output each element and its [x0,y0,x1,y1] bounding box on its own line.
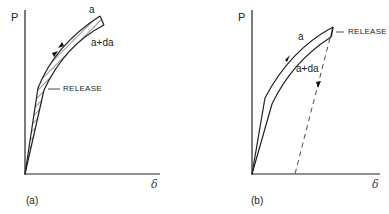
curve-a-a [25,16,100,174]
curve-label-a-b: a [298,32,304,42]
panel-caption-b: (b) [251,196,263,206]
curve-label-a: a [89,5,95,15]
p-axis-label-a: P [11,12,18,23]
curve-label-a-plus-da: a+da [91,38,114,48]
unloading-arrow-icon [316,81,321,88]
loading-arrow-icon [285,55,290,62]
release-label-a: RELEASE [63,85,102,93]
diagram-canvas [0,0,389,214]
curve-label-a-plus-da-b: a+da [296,64,319,74]
unloading-dashed-line [295,38,330,174]
curve-a-b [252,27,333,174]
delta-axis-label-b: δ [372,179,379,190]
delta-axis-label-a: δ [151,179,158,190]
p-axis-label-b: P [238,12,245,23]
release-label-b: RELEASE [348,28,387,36]
panel-caption-a: (a) [26,196,38,206]
